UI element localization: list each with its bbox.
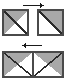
square-diagonal-upper-right-shaded <box>38 10 63 35</box>
arrow-left-middle-head <box>22 43 26 48</box>
arrow-left-middle <box>22 43 42 48</box>
diagram-root <box>0 0 66 79</box>
arrow-right-top <box>23 3 44 8</box>
diagram-canvas <box>0 0 66 79</box>
arrow-right-top-head <box>40 3 44 8</box>
square-diagonal-upper-left-shaded <box>3 10 28 35</box>
rectangle-double-triangle-v-pattern <box>3 52 63 77</box>
